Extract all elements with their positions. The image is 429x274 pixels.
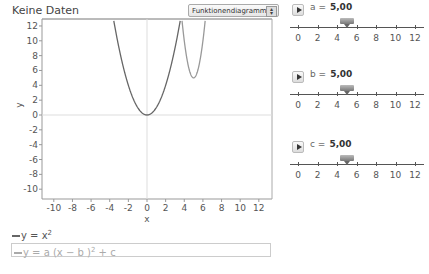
slider-tick [298, 92, 299, 96]
x-tick-label: -4 [105, 203, 114, 213]
slider-tick-label: 10 [386, 33, 406, 43]
slider-tick [396, 162, 397, 166]
slider-tick [318, 162, 319, 166]
slider-name: b [310, 69, 316, 79]
slider-tick [357, 162, 358, 166]
slider-value: 5,00 [329, 139, 351, 149]
slider-tick-label: 10 [386, 100, 406, 110]
slider-thumb[interactable] [340, 18, 354, 24]
slider-tick [337, 25, 338, 29]
y-axis-label: y [14, 102, 24, 108]
slider-label: b =5,00 [310, 69, 352, 79]
slider-tick-label: 12 [405, 33, 425, 43]
x-tick-label: -8 [68, 203, 77, 213]
slider-tick [298, 162, 299, 166]
x-tick-label: 4 [181, 203, 187, 213]
legend-text: y = a (x − b ) [23, 247, 91, 258]
legend-item-f2[interactable]: y = a (x − b )2 + c [11, 243, 271, 257]
slider-label: a =5,00 [310, 2, 352, 12]
slider-tick-label: 8 [366, 33, 386, 43]
slider-tick [337, 92, 338, 96]
slider-value: 5,00 [330, 69, 352, 79]
slider-tick-label: 6 [347, 170, 367, 180]
y-tick-label: 10 [27, 36, 39, 46]
y-tick-label: 2 [32, 95, 38, 105]
x-tick-label: 0 [144, 203, 150, 213]
y-tick-label: -4 [29, 140, 38, 150]
y-tick-label: -8 [29, 169, 38, 179]
slider-tick [337, 162, 338, 166]
slider-tick-label: 0 [288, 100, 308, 110]
slider-tick-label: 2 [308, 100, 328, 110]
function-plot[interactable]: -10-8-6-4-2024681012-10-8-6-4-2024681012… [0, 0, 290, 225]
x-tick-label: 10 [234, 203, 246, 213]
slider-tick-label: 8 [366, 170, 386, 180]
x-tick-label: 8 [219, 203, 225, 213]
slider-tick-label: 6 [347, 100, 367, 110]
slider-c[interactable]: c =5,00024681012 [288, 137, 428, 187]
y-tick-label: -2 [29, 125, 38, 135]
slider-tick-label: 0 [288, 170, 308, 180]
slider-tick-label: 12 [405, 170, 425, 180]
legend-exponent: 2 [48, 229, 52, 237]
y-tick-label: -10 [23, 184, 38, 194]
slider-tick [415, 162, 416, 166]
slider-tick [318, 92, 319, 96]
slider-tick-label: 4 [327, 33, 347, 43]
slider-tick [298, 25, 299, 29]
y-tick-label: -6 [29, 155, 38, 165]
x-tick-label: 6 [200, 203, 206, 213]
slider-tick-label: 6 [347, 33, 367, 43]
slider-tick-label: 10 [386, 170, 406, 180]
curve-f2 [182, 21, 205, 78]
y-tick-label: 0 [32, 110, 38, 120]
x-tick-label: -6 [87, 203, 96, 213]
slider-tick-label: 4 [327, 100, 347, 110]
slider-name: c [310, 139, 315, 149]
slider-tick [376, 162, 377, 166]
legend-text-suffix: + c [95, 247, 115, 258]
y-tick-label: 8 [32, 51, 38, 61]
play-icon[interactable] [292, 71, 304, 83]
slider-value: 5,00 [330, 2, 352, 12]
slider-tick-label: 4 [327, 170, 347, 180]
slider-tick [357, 92, 358, 96]
slider-tick [415, 92, 416, 96]
x-axis-label: x [144, 214, 150, 224]
slider-tick-label: 8 [366, 100, 386, 110]
x-tick-label: 2 [163, 203, 169, 213]
slider-tick-label: 2 [308, 33, 328, 43]
play-icon[interactable] [292, 4, 304, 16]
slider-b[interactable]: b =5,00024681012 [288, 67, 428, 117]
slider-tick-label: 0 [288, 33, 308, 43]
slider-tick [376, 92, 377, 96]
x-tick-label: 12 [253, 203, 264, 213]
line-swatch-icon [12, 235, 20, 237]
legend-text: y = x [21, 230, 48, 241]
slider-a[interactable]: a =5,00024681012 [288, 0, 428, 50]
y-tick-label: 6 [32, 65, 38, 75]
slider-tick [396, 92, 397, 96]
play-icon[interactable] [292, 141, 304, 153]
slider-thumb[interactable] [340, 155, 354, 161]
slider-thumb[interactable] [340, 85, 354, 91]
slider-tick [318, 25, 319, 29]
slider-tick [415, 25, 416, 29]
slider-label: c =5,00 [310, 139, 352, 149]
line-swatch-icon [14, 252, 22, 254]
slider-tick [357, 25, 358, 29]
slider-name: a [310, 2, 316, 12]
y-tick-label: 12 [27, 21, 38, 31]
x-tick-label: -2 [124, 203, 133, 213]
slider-tick [376, 25, 377, 29]
x-tick-label: -10 [46, 203, 61, 213]
slider-tick-label: 12 [405, 100, 425, 110]
legend-item-f1[interactable]: y = x2 [12, 229, 52, 241]
slider-tick-label: 2 [308, 170, 328, 180]
y-tick-label: 4 [32, 80, 38, 90]
slider-tick [396, 25, 397, 29]
